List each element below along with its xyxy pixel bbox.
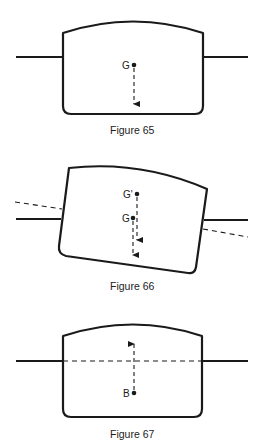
tilted-waterline-left (15, 202, 62, 209)
figure-caption: Figure 65 (110, 124, 155, 136)
hull-outline (63, 325, 202, 418)
figure-66: G' G Figure 66 (15, 166, 248, 292)
center-of-buoyancy-point (132, 391, 137, 396)
figure-65: G Figure 65 (16, 22, 248, 137)
figure-caption: Figure 66 (110, 280, 155, 292)
point-label-g: G (122, 213, 130, 224)
point-label-g-prime: G' (123, 189, 133, 200)
stability-diagrams: G Figure 65 G' G Figure 66 B Figure 67 (0, 0, 258, 443)
center-of-gravity-point (131, 216, 136, 221)
shifted-center-of-gravity-point (135, 192, 140, 197)
point-label-b: B (123, 388, 130, 399)
center-of-gravity-point (132, 63, 137, 68)
hull-outline (63, 22, 203, 115)
point-label-g: G (122, 60, 130, 71)
figure-67: B Figure 67 (16, 325, 248, 441)
tilted-waterline-right (203, 229, 248, 237)
figure-caption: Figure 67 (110, 428, 155, 440)
